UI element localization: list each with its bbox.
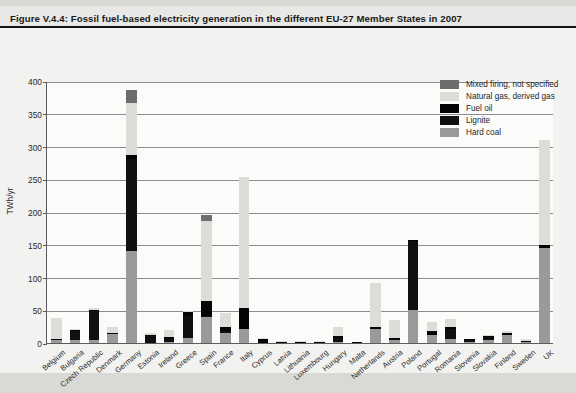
bar-germany[interactable] [126,90,137,343]
bar-portugal[interactable] [427,322,438,343]
bar-segment-hard-coal [521,342,532,343]
bar-segment-hard-coal [389,340,400,343]
y-tick-label: 100 [28,274,42,284]
bar-segment-natural-gas [427,322,438,331]
legend-label: Mixed firing, not specified [466,80,558,89]
bar-estonia[interactable] [145,333,156,343]
y-tick-label: 400 [28,77,42,87]
y-tick-mark [43,213,47,214]
bar-segment-lignite [70,331,81,340]
bar-austria[interactable] [389,320,400,343]
bar-segment-fuel-oil [295,342,306,343]
legend-item-fuel-oil[interactable]: Fuel oil [440,102,558,114]
bar-slovakia[interactable] [483,335,494,343]
gridline [47,147,553,148]
bar-latvia[interactable] [276,341,287,343]
bar-hungary[interactable] [333,327,344,343]
bar-segment-hard-coal [408,310,419,343]
legend-swatch-icon [440,128,459,137]
bar-ireland[interactable] [164,330,175,343]
gridline [47,278,553,279]
bar-segment-natural-gas [333,327,344,337]
bar-segment-hard-coal [483,340,494,343]
bar-italy[interactable] [239,177,250,343]
bar-segment-hard-coal [89,340,100,343]
x-axis-label-cyprus: Cyprus [250,348,274,370]
bar-segment-hard-coal [445,339,456,343]
figure-title-band: Figure V.4.4: Fossil fuel-based electric… [0,6,576,28]
y-tick-label: 150 [28,241,42,251]
bar-netherlands[interactable] [370,283,381,343]
gridline [47,245,553,246]
y-tick-label: 200 [28,208,42,218]
bar-segment-hard-coal [201,317,212,343]
bar-segment-natural-gas [164,330,175,337]
legend-item-mixed[interactable]: Mixed firing, not specified [440,78,558,90]
legend-label: Natural gas, derived gas [466,92,555,101]
bar-segment-natural-gas [445,319,456,328]
bar-spain[interactable] [201,215,212,343]
bar-luxembourg[interactable] [314,341,325,343]
bar-segment-hard-coal [464,342,475,343]
bar-segment-natural-gas [201,221,212,301]
bar-slovenia[interactable] [464,339,475,343]
bar-segment-hard-coal [370,329,381,343]
bar-belgium[interactable] [51,318,62,343]
figure-page: Figure V.4.4: Fossil fuel-based electric… [0,0,576,393]
y-tick-mark [43,82,47,83]
legend-item-lignite[interactable]: Lignite [440,115,558,127]
bar-sweden[interactable] [521,339,532,343]
bar-segment-hard-coal [427,335,438,343]
bar-segment-hard-coal [183,338,194,343]
bar-segment-mixed [126,90,137,102]
y-tick-mark [43,147,47,148]
bar-segment-natural-gas [126,103,137,155]
bar-segment-lignite [445,329,456,339]
bar-segment-natural-gas [370,283,381,327]
y-tick-label: 250 [28,175,42,185]
y-tick-label: 50 [33,306,42,316]
y-tick-label: 0 [37,339,42,349]
x-axis-label-uk: UK [541,348,555,362]
bar-czech-republic[interactable] [89,308,100,343]
bar-cyprus[interactable] [258,338,269,343]
bar-segment-fuel-oil [201,301,212,315]
bar-segment-hard-coal [51,340,62,343]
bar-segment-lignite [145,336,156,343]
y-tick-mark [43,278,47,279]
bar-segment-hard-coal [107,334,118,343]
bar-segment-natural-gas [539,140,550,245]
bar-segment-fuel-oil [276,342,287,343]
bar-greece[interactable] [183,311,194,343]
bar-finland[interactable] [502,331,513,343]
bar-segment-hard-coal [502,335,513,343]
gridline [47,311,553,312]
bar-poland[interactable] [408,240,419,343]
bar-segment-natural-gas [51,318,62,339]
figure-title: Figure V.4.4: Fossil fuel-based electric… [10,13,462,24]
bar-france[interactable] [220,313,231,343]
legend-label: Hard coal [466,128,501,137]
bar-segment-hard-coal [333,342,344,343]
bar-malta[interactable] [352,342,363,343]
bar-segment-fuel-oil [352,342,363,343]
bar-segment-lignite [183,316,194,338]
bar-uk[interactable] [539,140,550,343]
bar-segment-hard-coal [70,340,81,343]
y-tick-mark [43,245,47,246]
bar-romania[interactable] [445,319,456,343]
bar-segment-hard-coal [126,251,137,343]
legend-item-natural-gas[interactable]: Natural gas, derived gas [440,90,558,102]
legend-swatch-icon [440,92,459,101]
y-tick-label: 350 [28,110,42,120]
bar-segment-hard-coal [220,333,231,343]
bar-lithuania[interactable] [295,341,306,343]
legend-swatch-icon [440,80,459,89]
bar-segment-lignite [89,311,100,340]
bar-bulgaria[interactable] [70,329,81,343]
bar-denmark[interactable] [107,327,118,343]
figure-canvas: TWh/yr 050100150200250300350400 BelgiumB… [0,28,576,373]
legend-item-hard-coal[interactable]: Hard coal [440,127,558,139]
y-tick-mark [43,114,47,115]
gridline [47,180,553,181]
